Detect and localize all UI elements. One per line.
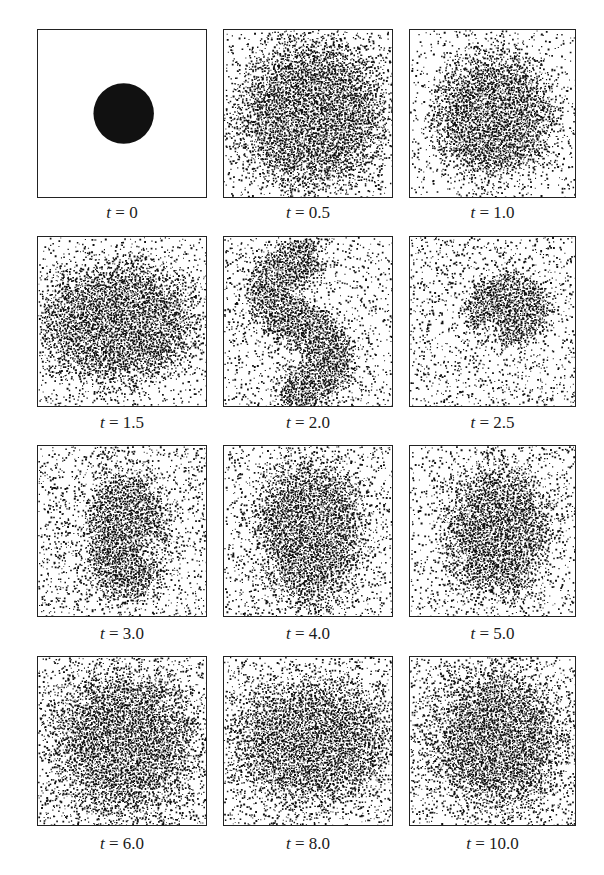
particle-plot bbox=[410, 446, 575, 616]
particle-cloud bbox=[224, 237, 392, 406]
time-value: 8.0 bbox=[309, 834, 330, 853]
time-value: 1.5 bbox=[123, 413, 144, 432]
time-label: t = 0 bbox=[32, 204, 212, 221]
time-value: 10.0 bbox=[489, 834, 519, 853]
equals-sign: = bbox=[291, 624, 309, 643]
snapshot-panel-t-1-0 bbox=[409, 29, 576, 198]
snapshot-panel-t-5-0 bbox=[409, 445, 576, 617]
time-label: t = 3.0 bbox=[32, 625, 212, 642]
particle-plot bbox=[38, 30, 206, 197]
time-label: t = 2.0 bbox=[218, 414, 398, 431]
particle-plot bbox=[38, 237, 206, 406]
snapshot-panel-t-0-5 bbox=[223, 29, 393, 198]
time-label: t = 2.5 bbox=[403, 414, 583, 431]
equals-sign: = bbox=[111, 203, 129, 222]
time-label: t = 1.0 bbox=[403, 204, 583, 221]
particle-cloud bbox=[410, 446, 575, 616]
particle-plot bbox=[38, 657, 206, 825]
time-value: 6.0 bbox=[123, 834, 144, 853]
time-value: 3.0 bbox=[123, 624, 144, 643]
time-label: t = 10.0 bbox=[403, 835, 583, 852]
particle-cloud bbox=[38, 657, 206, 825]
particle-plot bbox=[224, 30, 392, 197]
particle-cloud bbox=[224, 446, 392, 616]
time-value: 1.0 bbox=[493, 203, 514, 222]
particle-cloud bbox=[410, 30, 575, 197]
snapshot-panel-t-2-5 bbox=[409, 236, 576, 407]
snapshot-panel-t-6-0 bbox=[37, 656, 207, 826]
particle-plot bbox=[410, 237, 575, 406]
time-label: t = 6.0 bbox=[32, 835, 212, 852]
snapshot-panel-t-10-0 bbox=[409, 656, 576, 826]
equals-sign: = bbox=[291, 203, 309, 222]
particle-cloud bbox=[410, 657, 575, 825]
equals-sign: = bbox=[291, 834, 309, 853]
particle-plot bbox=[410, 30, 575, 197]
time-label: t = 0.5 bbox=[218, 204, 398, 221]
particle-plot bbox=[38, 446, 206, 616]
equals-sign: = bbox=[105, 624, 123, 643]
equals-sign: = bbox=[105, 413, 123, 432]
time-value: 2.5 bbox=[493, 413, 514, 432]
time-label: t = 5.0 bbox=[403, 625, 583, 642]
particle-cloud bbox=[38, 237, 206, 406]
dark-disk bbox=[93, 83, 153, 143]
equals-sign: = bbox=[475, 203, 493, 222]
time-value: 2.0 bbox=[309, 413, 330, 432]
equals-sign: = bbox=[475, 413, 493, 432]
particle-cloud bbox=[224, 30, 392, 197]
snapshot-panel-t-0 bbox=[37, 29, 207, 198]
equals-sign: = bbox=[471, 834, 489, 853]
time-value: 5.0 bbox=[493, 624, 514, 643]
equals-sign: = bbox=[475, 624, 493, 643]
snapshot-panel-t-2-0 bbox=[223, 236, 393, 407]
time-value: 0 bbox=[129, 203, 138, 222]
time-value: 0.5 bbox=[309, 203, 330, 222]
time-label: t = 4.0 bbox=[218, 625, 398, 642]
time-value: 4.0 bbox=[309, 624, 330, 643]
particle-plot bbox=[224, 657, 392, 825]
equals-sign: = bbox=[291, 413, 309, 432]
particle-cloud bbox=[38, 446, 206, 616]
equals-sign: = bbox=[105, 834, 123, 853]
particle-cloud bbox=[410, 237, 575, 406]
snapshot-panel-t-3-0 bbox=[37, 445, 207, 617]
particle-plot bbox=[224, 237, 392, 406]
particle-cloud bbox=[224, 657, 392, 825]
snapshot-panel-t-4-0 bbox=[223, 445, 393, 617]
time-label: t = 1.5 bbox=[32, 414, 212, 431]
time-label: t = 8.0 bbox=[218, 835, 398, 852]
particle-plot bbox=[224, 446, 392, 616]
snapshot-panel-t-8-0 bbox=[223, 656, 393, 826]
particle-plot bbox=[410, 657, 575, 825]
snapshot-panel-t-1-5 bbox=[37, 236, 207, 407]
